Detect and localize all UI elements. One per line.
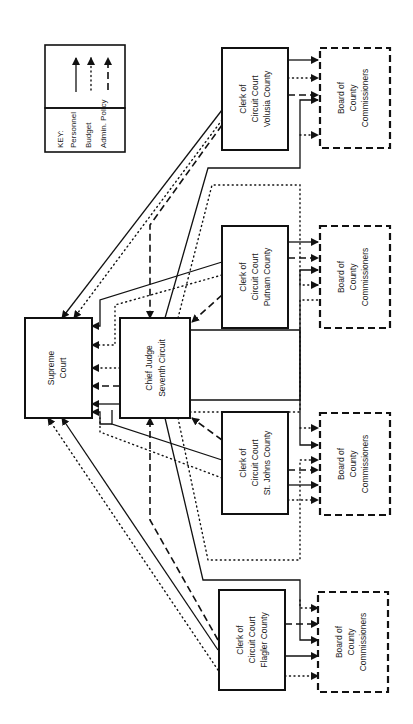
node-board-flagler: Board of County Commissioners [318,592,388,692]
board-volusia-label-2: County [348,84,358,112]
clerk-putnam-label-2: Circuit Court [250,253,260,301]
clerk-st-johns-label-2: Circuit Court [250,439,260,487]
node-clerk-volusia: Clerk of Circuit Court Volusia County [222,48,288,150]
chief-judge-label-1: Chief Judge [144,345,154,391]
board-flagler-label-2: County [346,628,356,656]
board-putnam-label-2: County [348,263,358,291]
chief-judge-label-2: Seventh Circuit [157,339,167,397]
clerk-volusia-label-1: Clerk of [238,84,248,114]
board-putnam-label-1: Board of [336,260,346,293]
node-chief-judge: Chief Judge Seventh Circuit [120,318,190,418]
clerk-volusia-label-3: Volusia County [262,70,272,127]
node-supreme-court: Supreme Court [25,318,92,418]
legend-label-personnel: Personnel [69,112,78,148]
board-flagler-label-3: Commissioners [358,613,368,672]
board-st-johns-label-3: Commissioners [360,435,370,494]
legend-label-budget: Budget [84,122,93,148]
board-putnam-label-3: Commissioners [360,248,370,307]
legend-label-admin-policy: Admin. Policy [99,100,108,148]
board-st-johns-label-2: County [348,450,358,478]
legend-key: KEY: Personnel Budget Admin. Policy [45,45,125,152]
board-st-johns-label-1: Board of [336,447,346,480]
board-volusia-label-3: Commissioners [360,69,370,128]
supreme-court-label-1: Supreme [46,350,56,385]
clerk-flagler-label-2: Circuit Court [247,616,257,664]
clerk-putnam-label-3: Putnam County [262,247,272,306]
clerk-volusia-label-2: Circuit Court [250,75,260,123]
node-board-st-johns: Board of County Commissioners [320,413,390,515]
node-board-volusia: Board of County Commissioners [320,48,390,148]
node-clerk-st-johns: Clerk of Circuit Court St. Johns County [222,412,288,514]
supreme-court-label-2: Court [58,357,68,378]
board-volusia-label-1: Board of [336,81,346,114]
clerk-st-johns-label-1: Clerk of [238,448,248,478]
node-clerk-putnam: Clerk of Circuit Court Putnam County [222,226,288,328]
node-board-putnam: Board of County Commissioners [320,226,390,328]
node-clerk-flagler: Clerk of Circuit Court Flagler County [219,590,285,690]
organization-diagram: KEY: Personnel Budget Admin. Policy [0,0,413,724]
board-flagler-label-1: Board of [334,625,344,658]
clerk-st-johns-label-3: St. Johns County [262,430,272,495]
clerk-putnam-label-1: Clerk of [238,262,248,292]
clerk-flagler-label-3: Flagler County [259,612,269,668]
legend-title: KEY: [56,130,65,148]
clerk-flagler-label-1: Clerk of [235,625,245,655]
